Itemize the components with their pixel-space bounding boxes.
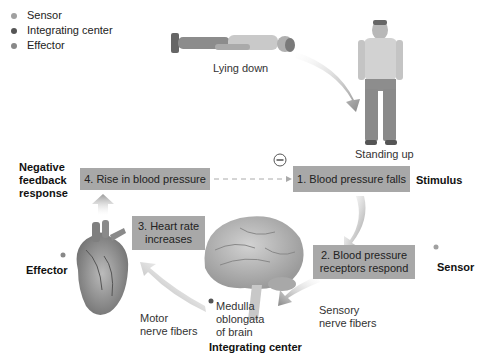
medulla-line: Medulla <box>216 300 264 313</box>
standing-man-figure <box>358 20 403 145</box>
arrow-effector-to-response <box>92 194 114 215</box>
effector-marker-dot-icon <box>61 253 66 258</box>
sensor-marker-dot-icon <box>434 245 439 250</box>
motor-line: nerve fibers <box>140 325 197 338</box>
step-3-box: 3. Heart rate increases <box>132 216 205 250</box>
integrating-center-label: Integrating center <box>209 341 302 354</box>
negative-feedback-response-label: Negative feedback response <box>19 161 68 200</box>
negative-feedback-line: Negative <box>19 161 68 174</box>
posture-change-arrow <box>295 52 360 112</box>
motor-nerve-fibers-label: Motor nerve fibers <box>140 312 197 338</box>
effector-label: Effector <box>26 264 68 277</box>
step-2-text-line2: receptors respond <box>320 262 409 275</box>
integrating-center-marker-dot-icon <box>209 299 214 304</box>
heart-illustration <box>77 220 129 315</box>
medulla-oblongata-label: Medulla oblongata of brain <box>216 300 264 339</box>
standing-up-label: Standing up <box>355 148 414 161</box>
step-1-text: 1. Blood pressure falls <box>297 173 406 186</box>
step-2-box: 2. Blood pressure receptors respond <box>313 245 415 279</box>
medulla-line: of brain <box>216 326 264 339</box>
lying-down-label: Lying down <box>213 62 268 75</box>
sensory-line: nerve fibers <box>319 317 376 330</box>
sensory-nerve-fibers-label: Sensory nerve fibers <box>319 304 376 330</box>
sensory-line: Sensory <box>319 304 376 317</box>
negative-feedback-line: response <box>19 187 68 200</box>
lying-man-figure <box>171 33 295 53</box>
step-2-text-line1: 2. Blood pressure <box>321 249 407 262</box>
medulla-line: oblongata <box>216 313 264 326</box>
step-3-text-line2: increases <box>145 233 192 246</box>
step-3-text-line1: 3. Heart rate <box>138 220 199 233</box>
step-1-box: 1. Blood pressure falls <box>293 166 410 192</box>
arrow-stimulus-to-sensor <box>344 196 366 250</box>
negative-feedback-line: feedback <box>19 174 68 187</box>
step-4-text: 4. Rise in blood pressure <box>84 173 206 186</box>
step-4-box: 4. Rise in blood pressure <box>80 168 210 190</box>
stimulus-label: Stimulus <box>416 174 462 187</box>
motor-line: Motor <box>140 312 197 325</box>
arrow-motor-nerve <box>140 262 206 312</box>
sensor-label: Sensor <box>437 261 474 274</box>
